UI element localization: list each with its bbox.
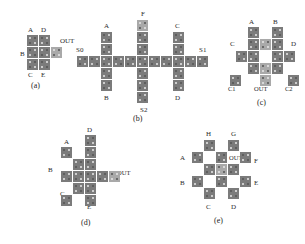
- qca-cell: [204, 188, 215, 199]
- qca-cell: [137, 92, 148, 103]
- qca-cell: [173, 56, 184, 67]
- qca-cell: [173, 80, 184, 91]
- qca-cell: [61, 171, 72, 182]
- qca-cell: [77, 56, 88, 67]
- panel-b-label-A: A: [104, 22, 109, 30]
- panel-e-label-G: G: [231, 130, 236, 138]
- qca-cell: [260, 39, 271, 50]
- panel-e-label-D: D: [231, 203, 236, 211]
- qca-cell: [39, 35, 50, 46]
- qca-cell: [216, 176, 227, 187]
- qca-cell: [240, 176, 251, 187]
- qca-cell-output: [260, 75, 271, 86]
- qca-cell: [137, 32, 148, 43]
- panel-c-label-C1: C1: [228, 85, 236, 93]
- qca-cell: [85, 195, 96, 206]
- panel-a-label-OUT: OUT: [60, 37, 74, 45]
- qca-cell: [137, 56, 148, 67]
- panel-a-label-A: A: [28, 26, 33, 34]
- qca-cell: [272, 51, 283, 62]
- qca-cell: [89, 56, 100, 67]
- panel-e-caption: (e): [214, 216, 223, 225]
- panel-a-caption: (a): [31, 81, 40, 90]
- panel-a: A D B OUT C E (a): [20, 26, 82, 92]
- qca-cell: [125, 56, 136, 67]
- qca-cell: [272, 39, 283, 50]
- panel-d-label-A: A: [64, 138, 69, 146]
- panel-d-label-D: D: [87, 126, 92, 134]
- panel-b-label-B: B: [104, 94, 109, 102]
- qca-cell: [197, 56, 208, 67]
- qca-cell: [149, 56, 160, 67]
- qca-cell: [228, 164, 239, 175]
- panel-a-label-B: B: [20, 50, 25, 58]
- qca-cell: [272, 63, 283, 74]
- qca-cell: [204, 164, 215, 175]
- qca-cell: [39, 59, 50, 70]
- panel-e-label-B: B: [180, 179, 185, 187]
- qca-cell: [204, 140, 215, 151]
- panel-a-label-C: C: [28, 71, 33, 79]
- panel-d: D A B OUT C E (d): [48, 126, 134, 238]
- qca-cell: [192, 176, 203, 187]
- qca-cell: [272, 27, 283, 38]
- qca-cell: [27, 35, 38, 46]
- panel-c-label-C: C: [230, 40, 235, 48]
- qca-cell: [85, 183, 96, 194]
- qca-cell: [137, 20, 148, 31]
- qca-cell: [248, 63, 259, 74]
- qca-cell: [248, 51, 259, 62]
- qca-cell: [173, 44, 184, 55]
- qca-cell: [185, 56, 196, 67]
- panel-b: F A C S0 S1 B D S2: [76, 10, 216, 122]
- panel-a-label-E: E: [41, 71, 45, 79]
- qca-cell: [101, 32, 112, 43]
- qca-cell-output: [109, 171, 120, 182]
- panel-b-label-F: F: [141, 10, 145, 18]
- panel-e: H G A OUT F B E C D (e): [178, 126, 268, 238]
- qca-cell: [173, 68, 184, 79]
- qca-cell: [39, 47, 50, 58]
- panel-e-label-A: A: [180, 154, 185, 162]
- qca-cell: [27, 59, 38, 70]
- panel-c-label-OUT: OUT: [254, 85, 267, 93]
- qca-cell-output: [51, 47, 62, 58]
- qca-cell: [73, 183, 84, 194]
- panel-d-caption: (d): [81, 218, 90, 227]
- qca-cell: [228, 140, 239, 151]
- qca-cell: [288, 75, 299, 86]
- qca-cell: [101, 68, 112, 79]
- panel-c-caption: (c): [257, 98, 266, 107]
- qca-cell: [230, 75, 241, 86]
- qca-cell: [192, 152, 203, 163]
- qca-cell: [73, 171, 84, 182]
- qca-cell: [61, 147, 72, 158]
- qca-cell: [284, 51, 295, 62]
- qca-cell: [137, 68, 148, 79]
- panel-d-label-B: B: [48, 166, 53, 174]
- panel-c-label-B: B: [273, 18, 278, 26]
- qca-cell: [236, 51, 247, 62]
- qca-cell: [173, 32, 184, 43]
- qca-cell: [248, 39, 259, 50]
- panel-c-label-D: D: [291, 40, 296, 48]
- qca-cell: [101, 44, 112, 55]
- panel-e-label-C: C: [206, 203, 211, 211]
- panel-b-label-C: C: [175, 22, 180, 30]
- qca-cell: [85, 159, 96, 170]
- panel-b-label-S0: S0: [76, 46, 83, 54]
- panel-e-label-F: F: [254, 157, 258, 165]
- qca-cell: [85, 135, 96, 146]
- panel-b-caption: (b): [133, 114, 142, 123]
- qca-cell: [161, 56, 172, 67]
- qca-cell: [101, 80, 112, 91]
- qca-cell: [73, 159, 84, 170]
- qca-cell: [260, 63, 271, 74]
- qca-cell: [248, 27, 259, 38]
- panel-a-label-D: D: [41, 26, 46, 34]
- panel-c: A B C D C1 OUT C2 (c): [228, 18, 302, 114]
- qca-cell: [101, 56, 112, 67]
- qca-figure: A D B OUT C E (a) F A C S0 S1 B D S2: [0, 0, 305, 244]
- qca-cell: [137, 44, 148, 55]
- qca-cell: [216, 152, 227, 163]
